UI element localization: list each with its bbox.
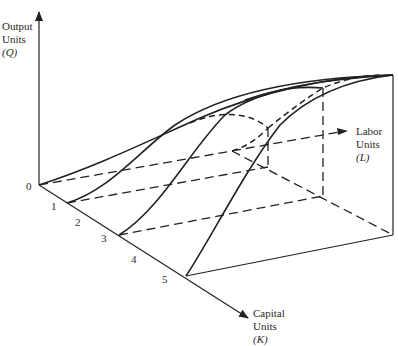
q-axis-label: Output Units (Q) [2,20,33,59]
tick-origin: 0 [26,180,32,192]
surface-curve-k1 [67,75,393,203]
tick-k-4: 4 [131,253,137,265]
tick-k-5: 5 [162,273,168,285]
k-axis-label: Capital Units (K) [253,307,285,346]
k-axis [39,185,248,318]
base-line-k1 [67,167,268,203]
box-bottom-edge [186,235,393,276]
l-axis-label: Labor Units (L) [356,125,382,164]
surface-curve-k5 [186,75,393,276]
base-line-k3 [119,196,323,235]
l-axis [39,131,345,185]
tick-k-3: 3 [101,232,107,244]
surface-curve-k3 [119,75,393,235]
tick-k-1: 1 [51,200,57,212]
tick-k-2: 2 [75,216,81,228]
